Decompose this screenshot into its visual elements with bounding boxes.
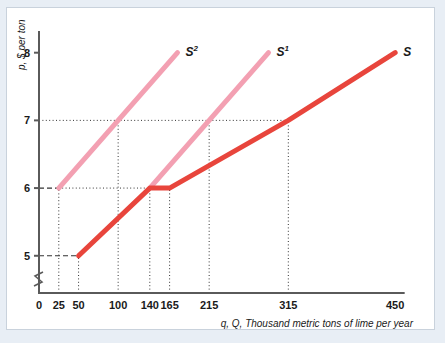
x-tick-label: 450 [386, 299, 404, 311]
curve-label-S1: S1 [277, 44, 290, 59]
dashed-guide-lines [39, 188, 79, 256]
axis-titles: p, $ per tonq, Q, Thousand metric tons o… [16, 19, 414, 329]
x-axis-title: q, Q, Thousand metric tons of lime per y… [221, 318, 414, 329]
y-tick-labels: 5678 [24, 47, 30, 262]
curve-label-superscript: 2 [193, 44, 199, 53]
curve-label-S2: S2 [186, 44, 199, 59]
x-tick-label: 165 [160, 299, 178, 311]
figure-card: S2S1S 02550100140165215315450 5678 p, $ … [6, 7, 435, 330]
x-tick-label: 315 [279, 299, 297, 311]
curve-S [79, 53, 396, 256]
y-tick-label: 6 [24, 182, 30, 194]
supply-curve-chart: S2S1S 02550100140165215315450 5678 p, $ … [7, 8, 436, 331]
x-tick-label: 0 [36, 299, 42, 311]
x-tick-labels: 02550100140165215315450 [36, 299, 404, 311]
axis-break-zigzag [34, 272, 43, 286]
curve-label-S: S [403, 45, 411, 59]
x-tick-label: 215 [200, 299, 218, 311]
y-axis-title: p, $ per ton [16, 19, 27, 71]
x-tick-label: 25 [53, 299, 65, 311]
curve-label-superscript: 1 [285, 44, 290, 53]
x-tick-label: 140 [141, 299, 159, 311]
y-tick-label: 7 [24, 114, 30, 126]
x-tick-label: 100 [109, 299, 127, 311]
curve-labels: S2S1S [186, 44, 412, 59]
dotted-guide-lines [39, 120, 288, 293]
supply-curves [59, 53, 395, 256]
axis-break-icon [34, 272, 43, 286]
y-tick-label: 5 [24, 250, 30, 262]
x-tick-label: 50 [72, 299, 84, 311]
